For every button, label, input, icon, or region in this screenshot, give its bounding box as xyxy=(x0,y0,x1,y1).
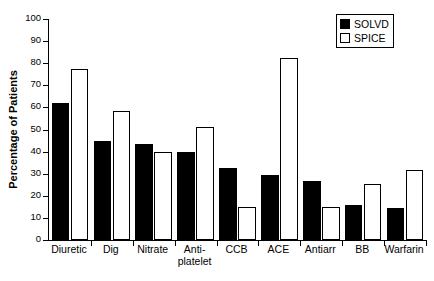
legend-swatch-spice-icon xyxy=(340,33,350,43)
legend-item-spice: SPICE xyxy=(340,31,389,45)
bar-solvd-ccb xyxy=(219,168,237,240)
chart-legend: SOLVD SPICE xyxy=(336,14,394,48)
x-category-label: Antiarr xyxy=(299,244,341,256)
x-category-label: ACE xyxy=(257,244,299,256)
bar-spice-nitrate xyxy=(154,152,172,240)
y-tick-label: 30 xyxy=(11,167,41,178)
x-category-label: Warfarin xyxy=(383,244,425,256)
bar-spice-antiplatelet xyxy=(196,127,214,240)
bar-solvd-antiarr xyxy=(303,181,321,240)
y-tick-label: 40 xyxy=(11,145,41,156)
bar-chart-figure: Percentage of Patients 01020304050607080… xyxy=(0,0,434,281)
bar-spice-dig xyxy=(113,111,131,240)
x-category-label: Anti- platelet xyxy=(174,244,216,267)
y-tick-mark xyxy=(43,152,49,153)
bar-spice-ccb xyxy=(238,207,256,240)
y-tick-label: 100 xyxy=(11,12,41,23)
y-tick-label: 70 xyxy=(11,78,41,89)
bar-spice-antiarr xyxy=(322,207,340,240)
bar-solvd-dig xyxy=(94,141,112,240)
bar-solvd-nitrate xyxy=(135,144,153,240)
x-category-label: BB xyxy=(341,244,383,256)
y-tick-mark xyxy=(43,107,49,108)
y-tick-mark xyxy=(43,85,49,86)
x-category-label: Nitrate xyxy=(132,244,174,256)
x-tick-mark xyxy=(426,240,427,246)
bar-spice-bb xyxy=(364,184,382,240)
y-tick-label: 0 xyxy=(11,233,41,244)
y-tick-mark xyxy=(43,218,49,219)
bar-spice-ace xyxy=(280,58,298,240)
y-tick-mark xyxy=(43,41,49,42)
bar-spice-warfarin xyxy=(406,170,424,240)
y-tick-label: 90 xyxy=(11,34,41,45)
y-tick-label: 50 xyxy=(11,123,41,134)
x-category-label: Diuretic xyxy=(48,244,90,256)
y-tick-label: 80 xyxy=(11,56,41,67)
legend-swatch-solvd-icon xyxy=(340,19,350,29)
x-category-label: Dig xyxy=(90,244,132,256)
y-tick-label: 20 xyxy=(11,189,41,200)
y-tick-mark xyxy=(43,174,49,175)
y-tick-label: 60 xyxy=(11,100,41,111)
x-category-label: CCB xyxy=(216,244,258,256)
bar-solvd-diuretic xyxy=(52,103,70,240)
bar-spice-diuretic xyxy=(71,69,89,240)
legend-item-solvd: SOLVD xyxy=(340,17,389,31)
y-tick-label: 10 xyxy=(11,211,41,222)
y-tick-mark xyxy=(43,130,49,131)
y-tick-mark xyxy=(43,63,49,64)
legend-label-solvd: SOLVD xyxy=(354,18,389,30)
legend-label-spice: SPICE xyxy=(354,32,386,44)
bar-solvd-antiplatelet xyxy=(177,152,195,240)
plot-area: 0102030405060708090100 xyxy=(48,19,426,241)
y-tick-mark xyxy=(43,240,49,241)
y-tick-mark xyxy=(43,196,49,197)
y-tick-mark xyxy=(43,19,49,20)
bar-solvd-ace xyxy=(261,175,279,240)
bar-solvd-bb xyxy=(345,205,363,240)
bar-solvd-warfarin xyxy=(387,208,405,240)
